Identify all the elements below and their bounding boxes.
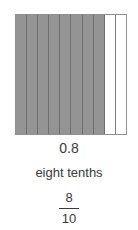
grid-column [105,15,116,134]
fraction-bar [59,208,79,209]
label-group: 0.8 eight tenths 8 10 [0,138,138,227]
tenths-grid [15,14,127,135]
grid-column [38,15,49,134]
grid-column [60,15,71,134]
grid-column [16,15,27,134]
grid-column [71,15,82,134]
decimal-model-page: 0.8 eight tenths 8 10 [0,0,138,230]
grid-column [27,15,38,134]
decimal-label: 0.8 [0,138,138,158]
fraction-numerator: 8 [59,190,79,207]
fraction-label: 8 10 [59,190,79,227]
tenths-model [15,14,127,135]
grid-column [49,15,60,134]
grid-column [94,15,105,134]
grid-column [116,15,126,134]
grid-column [83,15,94,134]
word-form-label: eight tenths [0,164,138,182]
fraction-denominator: 10 [59,211,79,227]
